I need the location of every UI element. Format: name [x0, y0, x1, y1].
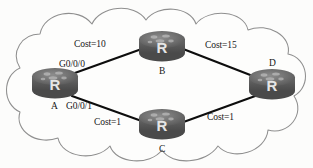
router-label-c: C [159, 144, 165, 154]
diagram-svg: R R R [0, 0, 313, 168]
svg-text:R: R [267, 77, 278, 94]
svg-text:R: R [157, 39, 168, 56]
router-label-a: A [51, 101, 58, 111]
router-label-d: D [269, 58, 276, 68]
interface-label-g0-0-0: G0/0/0 [59, 59, 85, 69]
interface-label-g0-0-1: G0/0/1 [66, 101, 92, 111]
cost-label-b-d: Cost=15 [205, 40, 237, 50]
cost-label-c-d: Cost=1 [207, 112, 234, 122]
svg-text:R: R [50, 76, 61, 93]
network-diagram-canvas: R R R [0, 0, 313, 168]
router-icon-d[interactable]: R [249, 69, 295, 100]
router-label-b: B [159, 66, 165, 76]
cost-label-a-c: Cost=1 [94, 117, 121, 127]
svg-text:R: R [157, 117, 168, 134]
cost-label-a-b: Cost=10 [74, 39, 106, 49]
router-icon-c[interactable]: R [139, 109, 185, 140]
router-icon-a[interactable]: R [32, 68, 78, 99]
router-icon-b[interactable]: R [139, 31, 185, 62]
